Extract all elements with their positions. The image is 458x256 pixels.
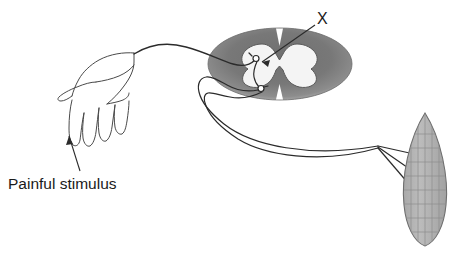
spinal-cord-cross-section <box>208 28 352 100</box>
reflex-arc-illustration: X Painful stimulus <box>0 0 458 256</box>
label-structure-x: X <box>317 10 328 27</box>
reflex-arc-figure: X Painful stimulus <box>0 0 458 256</box>
ventral-synapse <box>258 86 264 92</box>
dorsal-synapse <box>253 56 259 62</box>
label-painful-stimulus: Painful stimulus <box>8 175 117 192</box>
